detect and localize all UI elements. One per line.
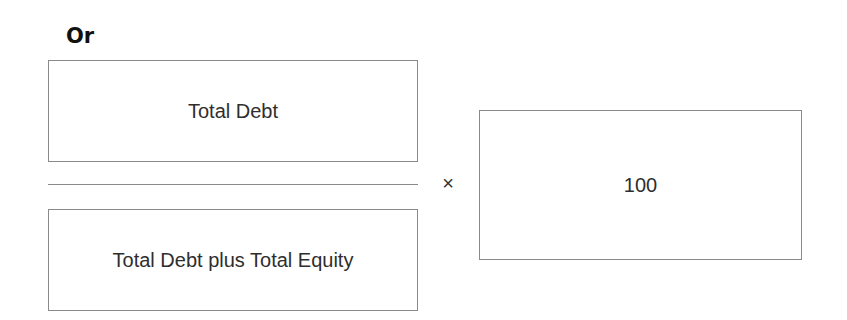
heading-or: Or	[66, 24, 94, 48]
multiplier-label: 100	[624, 174, 657, 197]
numerator-box: Total Debt	[48, 60, 418, 162]
denominator-label: Total Debt plus Total Equity	[113, 249, 354, 272]
fraction-divider	[48, 184, 418, 185]
numerator-label: Total Debt	[188, 100, 278, 123]
multiply-icon: ×	[441, 172, 455, 195]
denominator-box: Total Debt plus Total Equity	[48, 209, 418, 311]
multiplier-box: 100	[479, 110, 802, 260]
